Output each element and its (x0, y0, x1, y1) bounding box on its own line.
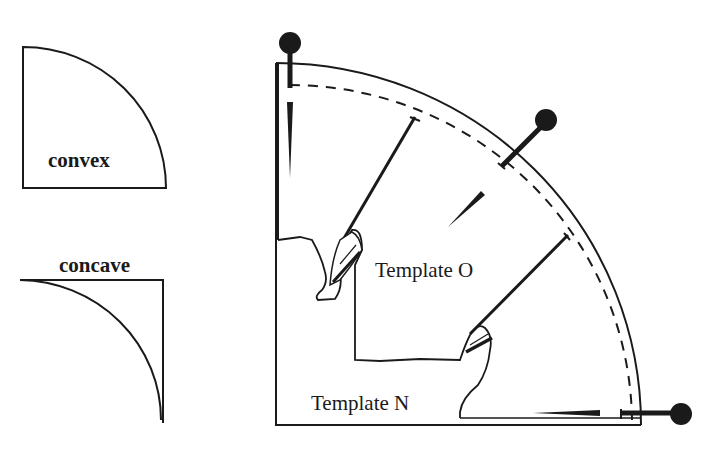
pin-middle (448, 109, 557, 227)
needle-top-left (287, 102, 293, 178)
diagram-canvas: convex concave Template O Template N (0, 0, 707, 458)
concave-label: concave (59, 253, 130, 277)
convex-shape: convex (23, 47, 166, 188)
convex-label: convex (48, 148, 110, 172)
pencil-lower (466, 233, 570, 352)
pin-bottom-right (533, 403, 692, 425)
needle-bottom (533, 410, 600, 416)
main-template-drawing: Template O Template N (276, 32, 692, 425)
template-o-label: Template O (375, 258, 473, 282)
pin-top (279, 32, 301, 178)
needle-middle (448, 191, 485, 227)
concave-shape: concave (20, 253, 163, 423)
template-n-label: Template N (311, 391, 409, 415)
pin-head-icon (670, 403, 692, 425)
